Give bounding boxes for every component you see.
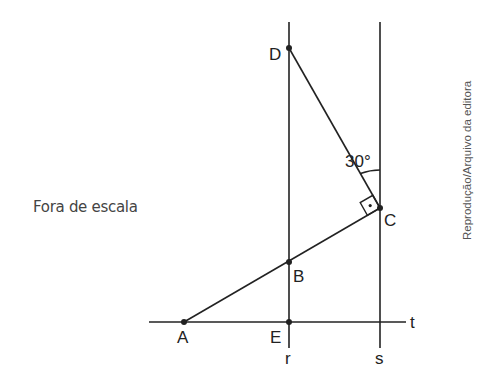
point-c <box>377 205 383 211</box>
right-angle-dot <box>369 204 372 207</box>
image-credit: Reprodução/Arquivo da editora <box>461 80 473 240</box>
label-line-t: t <box>410 313 415 332</box>
point-e <box>286 319 292 325</box>
label-line-s: s <box>375 349 384 368</box>
point-a <box>181 319 187 325</box>
angle-label: 30° <box>345 152 371 171</box>
scale-note: Fora de escala <box>33 198 138 216</box>
point-b <box>286 259 292 265</box>
label-d: D <box>269 45 281 64</box>
label-e: E <box>270 328 281 347</box>
label-c: C <box>384 211 396 230</box>
segment-ac <box>184 208 380 322</box>
geometry-figure: D C B A E r s t 30° Fora de escala Repro… <box>0 0 493 381</box>
point-d <box>286 45 292 51</box>
label-a: A <box>177 328 189 347</box>
segment-dc <box>289 48 380 208</box>
label-b: B <box>293 267 304 286</box>
label-line-r: r <box>285 349 291 368</box>
